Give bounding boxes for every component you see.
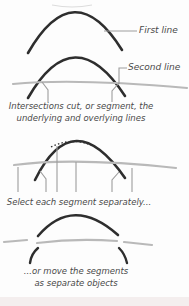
second-line-label: Second line bbox=[128, 62, 180, 72]
caption-move-line2: as separate objects bbox=[0, 278, 152, 290]
page-bottom-strip bbox=[0, 297, 189, 306]
second-line-arc bbox=[28, 57, 125, 98]
fig4-left-gray-segment bbox=[4, 240, 27, 242]
second-line-label-leader bbox=[119, 68, 127, 84]
fig4-bottom-left-dark-segment bbox=[30, 248, 38, 263]
segments-diagram-svg bbox=[0, 0, 189, 306]
caption-intersections: Intersections cut, or segment, the under… bbox=[0, 101, 162, 124]
first-line-label: First line bbox=[139, 25, 178, 35]
segment-leader-left-dark bbox=[40, 171, 46, 192]
fig3-arc bbox=[35, 141, 125, 180]
fig4-bottom-right-dark-segment bbox=[119, 248, 127, 263]
second-line-overlay bbox=[13, 82, 187, 88]
caption-select-segments: Select each segment separately... bbox=[0, 197, 158, 209]
segment-leader-right-dark bbox=[112, 172, 119, 192]
fig4-middle-gray-segment bbox=[37, 240, 117, 243]
first-line-arc bbox=[28, 12, 122, 53]
caption-move-line1: ...or move the segments bbox=[0, 266, 152, 278]
caption-move-segments: ...or move the segments as separate obje… bbox=[0, 266, 152, 289]
fig3-overlay-line bbox=[14, 162, 176, 168]
caption-intersections-line2: underlying and overlying lines bbox=[0, 113, 162, 125]
fig4-right-gray-segment bbox=[124, 242, 152, 245]
fig4-top-arc-segment bbox=[38, 215, 118, 236]
intersection-leader-left bbox=[42, 82, 48, 102]
top-page-remnant bbox=[52, 5, 92, 7]
caption-intersections-line1: Intersections cut, or segment, the bbox=[0, 101, 162, 113]
illustration-panel: First line Second line Intersections cut… bbox=[0, 0, 189, 306]
